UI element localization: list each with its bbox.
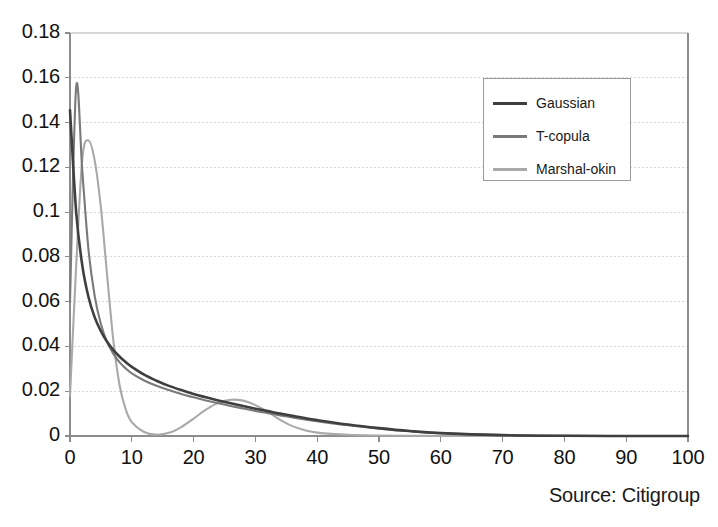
source-note: Source: Citigroup xyxy=(0,484,700,507)
legend-line-swatch xyxy=(493,102,527,105)
legend-item-label: Marshal-okin xyxy=(536,162,616,176)
x-tick-label: 30 xyxy=(225,446,285,469)
legend[interactable]: GaussianT-copulaMarshal-okin xyxy=(483,78,631,181)
y-tick-label: 0.06 xyxy=(0,289,60,312)
y-tick-label: 0.1 xyxy=(0,199,60,222)
legend-item-label: Gaussian xyxy=(536,96,595,110)
y-tick-label: 0.16 xyxy=(0,65,60,88)
y-tick-label: 0.14 xyxy=(0,110,60,133)
legend-item-label: T-copula xyxy=(536,129,590,143)
x-tick-label: 100 xyxy=(658,446,718,469)
legend-line-swatch xyxy=(493,135,527,138)
x-tick-label: 80 xyxy=(534,446,594,469)
y-tick-label: 0.04 xyxy=(0,333,60,356)
x-tick-label: 10 xyxy=(102,446,162,469)
y-tick-label: 0.12 xyxy=(0,154,60,177)
x-tick-label: 50 xyxy=(349,446,409,469)
legend-item-t-copula[interactable]: T-copula xyxy=(493,128,590,144)
x-tick-label: 60 xyxy=(411,446,471,469)
y-tick-label: 0 xyxy=(0,423,60,446)
x-tick-label: 0 xyxy=(40,446,100,469)
x-tick-label: 40 xyxy=(287,446,347,469)
y-tick-label: 0.08 xyxy=(0,244,60,267)
x-tick-label: 70 xyxy=(473,446,533,469)
x-tick-label: 20 xyxy=(164,446,224,469)
legend-item-gaussian[interactable]: Gaussian xyxy=(493,95,595,111)
density-chart: 00.020.040.060.080.10.120.140.160.18 010… xyxy=(0,0,718,527)
legend-item-marshal-okin[interactable]: Marshal-okin xyxy=(493,161,616,177)
y-tick-label: 0.02 xyxy=(0,378,60,401)
legend-line-swatch xyxy=(493,168,527,171)
y-tick-label: 0.18 xyxy=(0,20,60,43)
x-tick-label: 90 xyxy=(596,446,656,469)
